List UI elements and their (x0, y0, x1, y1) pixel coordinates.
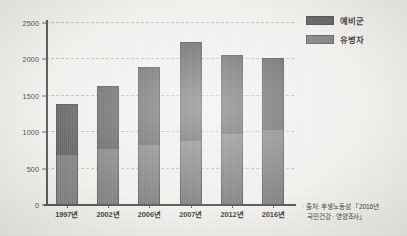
bar-segment-yebigun-2007년[interactable] (180, 42, 202, 141)
y-axis-line (46, 20, 48, 206)
bar-segment-yebigun-2006년[interactable] (138, 67, 160, 145)
y-tick-label-1000: 1000 (23, 128, 39, 137)
bar-segment-yebigun-2016년[interactable] (262, 58, 284, 131)
plot-area: 05001000150020002500 (46, 22, 294, 204)
legend-label-yebigun: 예비군 (340, 14, 364, 26)
source-note-line-1: ·출처: 후생노동성 「2016년 (302, 202, 406, 212)
bar-segment-yebigun-2002년[interactable] (97, 86, 119, 149)
bullet-icon: · (302, 202, 304, 212)
bar-segment-yubyeongja-1997년[interactable] (56, 155, 78, 205)
chart-legend: 예비군 유병자 (306, 14, 364, 45)
bar-column-2007년[interactable] (180, 42, 202, 204)
x-axis-line (44, 204, 296, 206)
bar-column-2016년[interactable] (262, 58, 284, 204)
bar-column-2012년[interactable] (221, 55, 243, 204)
y-tick-label-2000: 2000 (23, 55, 39, 64)
bar-segment-yubyeongja-2002년[interactable] (97, 149, 119, 204)
y-tick-label-1500: 1500 (23, 91, 39, 100)
x-tick-label-2006년: 2006년 (138, 208, 161, 219)
x-tick-label-2012년: 2012년 (221, 208, 244, 219)
bar-segment-yubyeongja-2012년[interactable] (221, 134, 243, 204)
bar-column-2006년[interactable] (138, 67, 160, 204)
y-tick-label-2500: 2500 (23, 19, 39, 28)
bar-segment-yubyeongja-2007년[interactable] (180, 141, 202, 204)
x-tick-label-1997년: 1997년 (55, 208, 78, 219)
source-note-text-1: 출처: 후생노동성 「2016년 (306, 203, 379, 210)
y-tick-label-0: 0 (35, 201, 39, 210)
bar-segment-yubyeongja-2016년[interactable] (262, 130, 284, 204)
legend-label-yubyeongja: 유병자 (340, 33, 364, 45)
bar-column-2002년[interactable] (97, 86, 119, 204)
legend-swatch-yubyeongja (306, 35, 334, 44)
bar-segment-yebigun-2012년[interactable] (221, 55, 243, 134)
legend-swatch-yebigun (306, 16, 334, 25)
bar-segment-yebigun-1997년[interactable] (56, 104, 78, 154)
legend-item-yubyeongja[interactable]: 유병자 (306, 33, 364, 45)
bar-column-1997년[interactable] (56, 104, 78, 204)
source-note-line-2: 국민건강 · 영양조사」 (302, 212, 406, 222)
bar-segment-yubyeongja-2006년[interactable] (138, 145, 160, 204)
y-tick-label-500: 500 (27, 164, 39, 173)
x-tick-label-2016년: 2016년 (262, 208, 285, 219)
bar-series-group (46, 22, 294, 204)
source-note: ·출처: 후생노동성 「2016년 국민건강 · 영양조사」 (302, 202, 406, 221)
x-tick-label-2002년: 2002년 (97, 208, 120, 219)
chart-page: 05001000150020002500 1997년2002년2006년2007… (0, 0, 407, 236)
x-tick-label-2007년: 2007년 (179, 208, 202, 219)
legend-item-yebigun[interactable]: 예비군 (306, 14, 364, 26)
